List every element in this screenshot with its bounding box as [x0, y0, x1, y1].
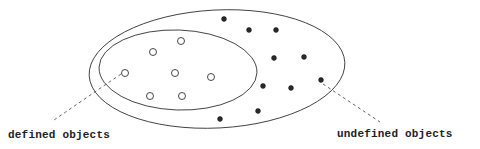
undefined-leader-line: [323, 84, 380, 122]
defined-object-marker: [208, 74, 215, 81]
undefined-object-marker: [261, 84, 266, 89]
defined-object-marker: [178, 38, 185, 45]
objects-diagram: [0, 0, 480, 149]
undefined-object-marker: [272, 56, 277, 61]
defined-objects-label: defined objects: [8, 129, 110, 141]
undefined-object-marker: [319, 78, 324, 83]
defined-leader-line: [54, 74, 121, 120]
undefined-objects-label: undefined objects: [337, 128, 453, 140]
undefined-object-marker: [289, 86, 294, 91]
undefined-objects-group: [218, 17, 324, 122]
defined-object-marker: [179, 93, 186, 100]
undefined-object-marker: [222, 17, 227, 22]
defined-objects-group: [122, 38, 215, 100]
undefined-object-marker: [274, 28, 279, 33]
defined-object-marker: [122, 70, 129, 77]
defined-object-marker: [172, 70, 179, 77]
defined-object-marker: [147, 93, 154, 100]
outer-ellipse-universe: [86, 3, 348, 134]
undefined-object-marker: [247, 28, 252, 33]
defined-object-marker: [150, 49, 157, 56]
undefined-object-marker: [256, 109, 261, 114]
undefined-object-marker: [302, 55, 307, 60]
undefined-object-marker: [218, 117, 223, 122]
